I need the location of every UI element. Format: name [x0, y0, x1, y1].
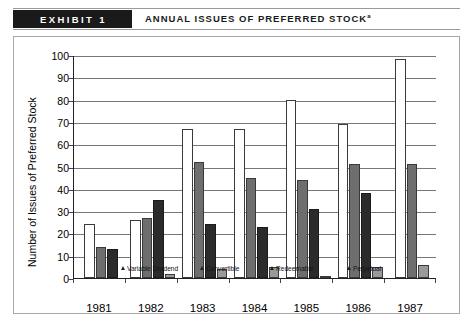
x-axis-tick-mark [435, 279, 436, 283]
y-axis-tick-label: 60 [29, 140, 69, 150]
legend-item-redeemable: Redeemable [270, 265, 313, 272]
exhibit-header: EXHIBIT 1 ANNUAL ISSUES OF PREFERRED STO… [13, 8, 460, 30]
triangle-up-icon [121, 266, 125, 270]
gridline [73, 101, 436, 102]
bar-1987-variable-dividend [395, 59, 406, 278]
page-title-footnote-marker: a [367, 13, 370, 19]
bar-1983-convertible [194, 162, 205, 278]
triangle-up-icon [347, 266, 351, 270]
bar-1984-variable-dividend [234, 129, 245, 278]
y-axis-tick-label: 20 [29, 229, 69, 239]
triangle-up-icon [270, 266, 274, 270]
bar-1984-convertible [246, 178, 257, 278]
legend-label: Convertible [206, 265, 239, 272]
gridline [73, 168, 436, 169]
y-axis-line [73, 56, 74, 279]
bar-1987-convertible [407, 164, 418, 278]
bar-1986-convertible [349, 164, 360, 278]
header-bottom-rule [13, 29, 460, 30]
bar-1986-variable-dividend [338, 124, 349, 278]
y-axis-title: Number of Issues of Preferred Stock [12, 0, 24, 89]
bar-1985-variable-dividend [286, 100, 297, 278]
triangle-up-icon [200, 266, 204, 270]
x-axis-tick-mark [125, 279, 126, 283]
y-axis-tick-label: 10 [29, 252, 69, 262]
x-axis-tick-mark [229, 279, 230, 283]
header-top-rule [13, 8, 460, 9]
plot-area: 1009080706050403020100 19811982198319841… [73, 56, 436, 279]
x-axis-tick-mark [332, 279, 333, 283]
bar-1983-variable-dividend [182, 129, 193, 278]
x-axis-tick-mark [73, 279, 74, 283]
bar-1985-convertible [297, 180, 308, 278]
legend-item-perpetual: Perpetual [347, 265, 381, 272]
gridline [73, 78, 436, 79]
exhibit-number-badge: EXHIBIT 1 [13, 10, 132, 28]
y-axis-tick-label: 0 [29, 274, 69, 284]
x-axis-tick-mark [177, 279, 178, 283]
legend-label: Redeemable [276, 265, 313, 272]
x-axis-tick-mark [280, 279, 281, 283]
gridline [73, 145, 436, 146]
x-axis-tick-mark [384, 279, 385, 283]
page-title-text: ANNUAL ISSUES OF PREFERRED STOCK [145, 13, 367, 24]
y-axis-tick-label: 50 [29, 163, 69, 173]
page-title: ANNUAL ISSUES OF PREFERRED STOCKa [145, 13, 371, 24]
legend-label: Variable Dividend [127, 265, 178, 272]
chart-legend: Variable DividendConvertibleRedeemablePe… [73, 265, 436, 279]
y-axis-tick-label: 80 [29, 96, 69, 106]
y-axis-tick-label: 70 [29, 118, 69, 128]
y-axis-tick-label: 100 [29, 51, 69, 61]
legend-item-variable-dividend: Variable Dividend [121, 265, 178, 272]
y-axis-tick-label: 40 [29, 185, 69, 195]
legend-label: Perpetual [353, 265, 381, 272]
legend-item-convertible: Convertible [200, 265, 239, 272]
gridline [73, 123, 436, 124]
x-axis-label-1987: 1987 [380, 302, 440, 314]
y-axis-tick-label: 30 [29, 207, 69, 217]
chart-container: Number of Issues of Preferred Stock 1009… [13, 36, 460, 314]
y-axis-tick-label: 90 [29, 73, 69, 83]
gridline [73, 56, 436, 57]
